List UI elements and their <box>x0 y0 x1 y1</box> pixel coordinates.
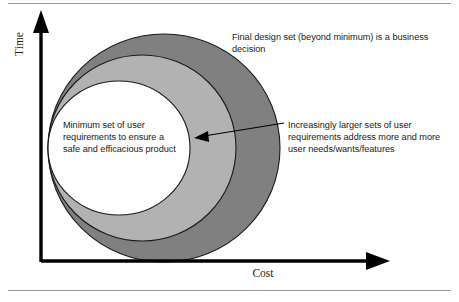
x-axis-label: Cost <box>243 267 283 279</box>
callout-minimum-set: Minimum set of user requirements to ensu… <box>63 119 183 156</box>
x-axis-arrowhead <box>366 252 390 270</box>
y-axis-label: Time <box>13 20 25 68</box>
callout-final-design-set: Final design set (beyond minimum) is a b… <box>232 31 447 55</box>
x-axis <box>41 252 390 270</box>
callout-increasing-sets: Increasingly larger sets of user require… <box>288 119 459 156</box>
diagram-page: Final design set (beyond minimum) is a b… <box>0 0 459 302</box>
y-axis <box>33 10 49 262</box>
y-axis-arrowhead <box>33 10 49 33</box>
